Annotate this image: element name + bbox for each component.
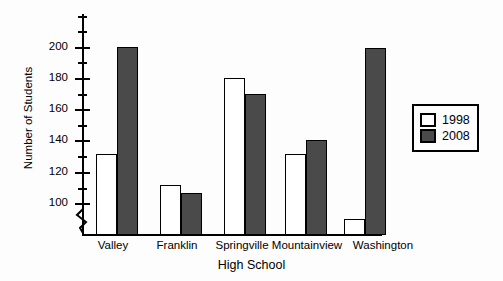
- bar-group-springville: [224, 14, 268, 235]
- bar-springville-2008: [245, 94, 266, 235]
- y-axis-tick-labels: 200 180 160 140 120 100: [32, 0, 68, 281]
- legend-label-1998: 1998: [442, 114, 470, 127]
- bar-washington-1998: [344, 219, 365, 235]
- x-tick-label-valley: Valley: [76, 239, 150, 251]
- bar-springville-1998: [224, 78, 245, 235]
- legend-item-1998: 1998: [420, 113, 470, 127]
- bar-washington-2008: [365, 48, 386, 235]
- y-tick-label-160: 160: [34, 103, 68, 115]
- bar-group-mountainview: [285, 14, 329, 235]
- legend-swatch-1998: [420, 113, 436, 127]
- legend-item-2008: 2008: [420, 129, 470, 143]
- chart-legend: 1998 2008: [412, 104, 479, 152]
- y-tick-label-140: 140: [34, 134, 68, 146]
- bar-franklin-1998: [160, 185, 181, 235]
- x-axis-title: High School: [0, 258, 503, 272]
- bar-mountainview-1998: [285, 154, 306, 235]
- bar-group-washington: [344, 14, 388, 235]
- legend-label-2008: 2008: [442, 130, 470, 143]
- bar-valley-2008: [117, 47, 138, 235]
- bar-franklin-2008: [181, 193, 202, 235]
- plot-area: [82, 14, 382, 235]
- legend-swatch-2008: [420, 129, 436, 143]
- bar-chart: Number of Students 200 180 160 140 120 1…: [0, 0, 503, 281]
- y-tick-label-180: 180: [34, 72, 68, 84]
- y-tick-label-200: 200: [34, 41, 68, 53]
- bar-group-franklin: [160, 14, 204, 235]
- bar-group-valley: [96, 14, 140, 235]
- x-tick-label-mountainview: Mountainview: [262, 239, 352, 251]
- bar-mountainview-2008: [306, 140, 327, 235]
- bar-valley-1998: [96, 154, 117, 235]
- x-tick-label-washington: Washington: [343, 239, 423, 251]
- y-tick-label-120: 120: [34, 166, 68, 178]
- y-tick-label-100: 100: [34, 197, 68, 209]
